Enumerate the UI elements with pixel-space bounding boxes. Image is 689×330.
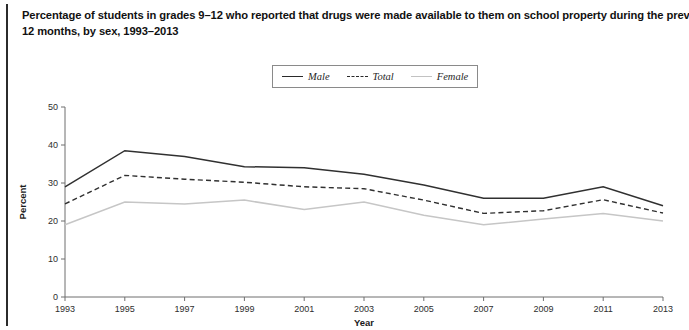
x-axis-tick-label: 2001 <box>294 304 314 314</box>
x-axis-tick-label: 2011 <box>594 304 613 314</box>
series-line-total <box>65 175 663 213</box>
x-axis-tick-label: 1993 <box>55 304 75 314</box>
y-axis: 01020304050 <box>48 102 65 302</box>
y-axis-title: Percent <box>17 184 28 220</box>
x-axis-tick-label: 2013 <box>653 304 673 314</box>
x-axis-tick-label: 1999 <box>234 304 254 314</box>
y-axis-tick-label: 0 <box>53 292 58 302</box>
data-series-group <box>65 151 663 225</box>
x-axis-tick-label: 2005 <box>414 304 434 314</box>
x-axis-tick-label: 2003 <box>354 304 374 314</box>
plot-area: 01020304050 1993199519971999200120032005… <box>0 0 689 330</box>
y-axis-tick-label: 10 <box>48 254 58 264</box>
y-axis-tick-label: 30 <box>48 178 58 188</box>
x-axis-title: Year <box>354 317 374 328</box>
x-axis-tick-label: 2009 <box>533 304 553 314</box>
series-line-male <box>65 151 663 206</box>
y-axis-tick-label: 50 <box>48 102 58 112</box>
x-axis: 1993199519971999200120032005200720092011… <box>55 297 673 314</box>
y-axis-tick-label: 40 <box>48 140 58 150</box>
x-axis-tick-label: 2007 <box>474 304 494 314</box>
x-axis-tick-label: 1997 <box>175 304 195 314</box>
chart-canvas: 01020304050 1993199519971999200120032005… <box>0 0 689 330</box>
x-axis-tick-label: 1995 <box>115 304 135 314</box>
y-axis-tick-label: 20 <box>48 216 58 226</box>
series-line-female <box>65 200 663 225</box>
figure-container: Percentage of students in grades 9–12 wh… <box>0 0 689 330</box>
